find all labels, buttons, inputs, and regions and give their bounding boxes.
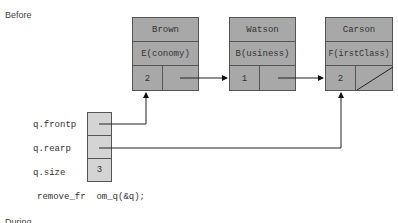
- queue-frontp-label: q.frontp: [33, 120, 76, 130]
- node-next-pointer: [163, 66, 198, 91]
- queue-rearp-cell: [88, 136, 111, 159]
- node-count: 1: [230, 66, 260, 91]
- code-call: remove_fr om_q(&q);: [37, 192, 145, 202]
- queue-size-value: 3: [88, 159, 111, 181]
- list-node-brown: Brown E(conomy) 2: [132, 17, 199, 91]
- node-next-pointer: [260, 66, 295, 91]
- queue-frontp-cell: [88, 113, 111, 136]
- node-class: F(irstClass): [326, 42, 392, 66]
- queue-size-label: q.size: [33, 168, 65, 178]
- arrow-rearp-to-carson: [99, 93, 341, 148]
- before-section-label: Before: [5, 10, 32, 20]
- node-name: Watson: [230, 18, 295, 42]
- queue-struct: 3: [87, 112, 112, 182]
- list-node-carson: Carson F(irstClass) 2: [325, 17, 393, 91]
- node-name: Carson: [326, 18, 392, 42]
- queue-rearp-label: q.rearp: [33, 144, 71, 154]
- node-name: Brown: [133, 18, 198, 42]
- node-class: E(conomy): [133, 42, 198, 66]
- during-section-label: During: [5, 217, 32, 223]
- node-count: 2: [133, 66, 163, 91]
- null-pointer-icon: [356, 66, 392, 91]
- list-node-watson: Watson B(usiness) 1: [229, 17, 296, 91]
- node-count: 2: [326, 66, 356, 91]
- node-class: B(usiness): [230, 42, 295, 66]
